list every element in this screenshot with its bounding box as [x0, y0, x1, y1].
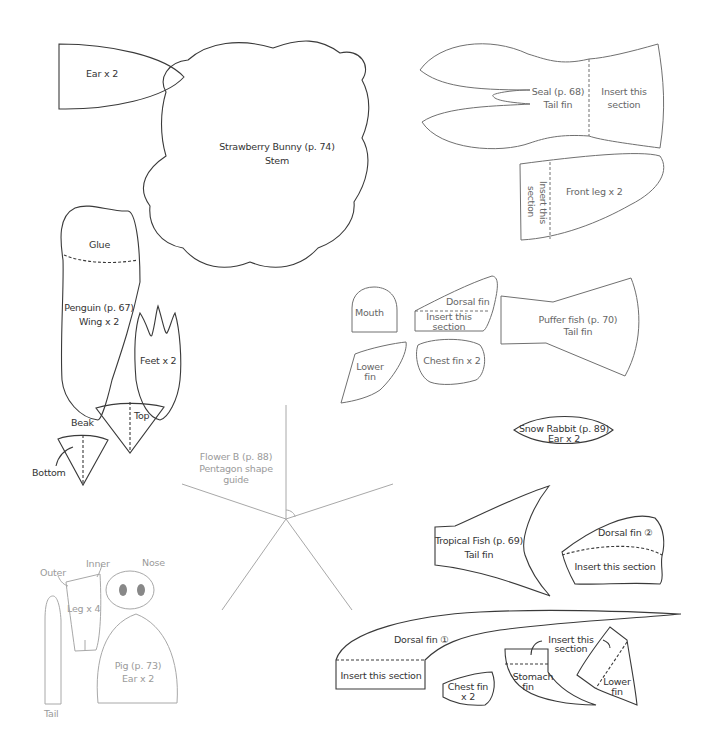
tropical-stomach-insert-pointer [531, 641, 542, 655]
bunny-stem-label-2: Stem [202, 155, 352, 167]
penguin-beak-bottom-label: Bottom [32, 467, 66, 479]
penguin-wing-label-2: Wing x 2 [58, 316, 140, 328]
snow-rabbit-label-2: Ear x 2 [518, 433, 610, 445]
seal-insert-label-1: Insert this [596, 86, 652, 98]
puffer-mouth-label: Mouth [355, 307, 384, 319]
pig-ear-shape [97, 614, 177, 703]
tropical-dorsal-fin1-insert-label: Insert this section [337, 670, 425, 682]
pentagon-guide-line-lowright [286, 519, 352, 610]
puffer-tail-label-2: Tail fin [534, 326, 622, 338]
seal-tail-label-2: Tail fin [530, 99, 586, 111]
pig-nostril-left [119, 584, 127, 596]
seal-tail-label-1: Seal (p. 68) [530, 86, 586, 98]
pig-tail-shape [45, 596, 61, 704]
pig-nose-label: Nose [142, 557, 165, 569]
penguin-wing-label-1: Penguin (p. 67) [58, 302, 140, 314]
pig-leg-label: Leg x 4 [67, 603, 100, 615]
pattern-sheet: Ear x 2 Strawberry Bunny (p. 74) Stem Se… [0, 0, 715, 754]
flower-b-label-1: Flower B (p. 88) [196, 451, 276, 463]
seal-front-leg-label: Front leg x 2 [566, 186, 623, 198]
tropical-dorsal-fin1-label: Dorsal fin ① [394, 634, 449, 646]
penguin-beak-top-label: Top [134, 410, 149, 422]
pentagon-guide-angle-arc [286, 510, 295, 517]
pig-ear-label-1: Pig (p. 73) [108, 660, 168, 672]
pentagon-guide-line-left [182, 484, 286, 519]
bunny-ear-label: Ear x 2 [86, 68, 118, 80]
puffer-lower-fin-label-2: fin [355, 371, 385, 383]
tropical-lower-insert-pointer [603, 640, 610, 648]
tropical-dorsal-fin2-insert-line [562, 546, 662, 555]
pig-tail-label: Tail [44, 708, 59, 720]
puffer-chest-fin-label: Chest fin x 2 [420, 355, 484, 367]
tropical-stomach-insert-label-2: section [544, 643, 598, 655]
bunny-stem-label-1: Strawberry Bunny (p. 74) [202, 141, 352, 153]
penguin-glue-line [64, 255, 138, 262]
tropical-chest-fin-label-2: x 2 [446, 691, 490, 703]
pentagon-guide-line-right [286, 484, 393, 519]
seal-insert-label-2: section [596, 99, 652, 111]
pig-ear-label-2: Ear x 2 [108, 673, 168, 685]
tropical-tail-label-1: Tropical Fish (p. 69) [433, 535, 525, 547]
tropical-dorsal-fin2-insert-label: Insert this section [572, 561, 658, 573]
tropical-tail-label-2: Tail fin [433, 549, 525, 561]
tropical-stomach-label-2: fin [508, 681, 548, 693]
pentagon-guide-line-lowleft [222, 519, 286, 610]
penguin-glue-label: Glue [89, 239, 110, 251]
pig-outer-label: Outer [40, 567, 66, 579]
flower-b-label-3: guide [196, 474, 276, 486]
puffer-dorsal-fin-label: Dorsal fin [446, 296, 489, 308]
tropical-lower-fin-label-2: fin [600, 686, 634, 698]
penguin-feet-label: Feet x 2 [140, 355, 176, 367]
penguin-beak-label: Beak [71, 417, 94, 429]
pig-nostril-right [137, 584, 145, 596]
pig-nose-shape [106, 571, 154, 609]
puffer-tail-label-1: Puffer fish (p. 70) [534, 314, 622, 326]
bunny-ear-shape [59, 44, 184, 109]
pig-inner-label: Inner [86, 558, 110, 570]
tropical-dorsal-fin2-label: Dorsal fin ② [598, 527, 653, 539]
seal-front-leg-insert-label: Insert this section [523, 174, 549, 230]
puffer-dorsal-insert-label-2: section [422, 321, 476, 333]
